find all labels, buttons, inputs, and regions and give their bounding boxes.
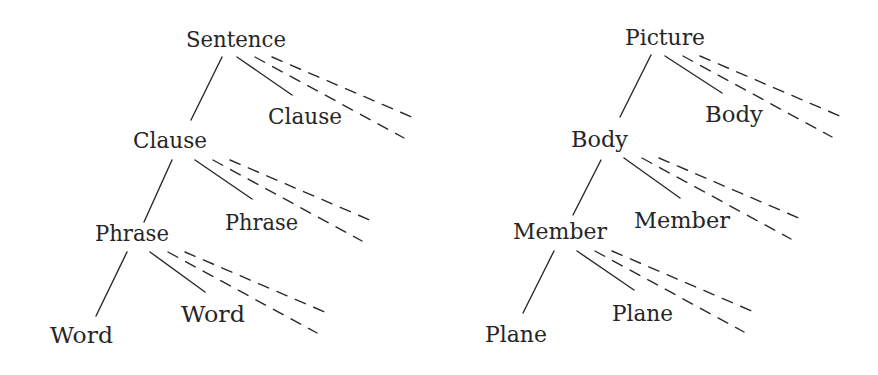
node-member-b: Member	[634, 207, 730, 233]
edge-right-child	[150, 252, 205, 292]
node-plane-a: Plane	[485, 321, 547, 347]
node-clause-a: Clause	[133, 127, 207, 153]
edge-left-child	[96, 252, 127, 316]
node-sentence: Sentence	[186, 26, 286, 52]
node-body-a: Body	[571, 126, 628, 152]
edge-right-child	[624, 158, 680, 198]
edge-right-child	[665, 56, 722, 93]
node-clause-b: Clause	[268, 103, 342, 129]
node-plane-b: Plane	[612, 300, 673, 326]
hierarchy-diagram: SentenceClauseClausePhrasePhraseWordWord…	[0, 0, 878, 375]
edge-left-child	[620, 55, 651, 117]
node-phrase-b: Phrase	[225, 209, 298, 235]
node-word-b: Word	[181, 301, 245, 327]
sentence-hierarchy-tree: SentenceClauseClausePhrasePhraseWordWord	[50, 26, 414, 348]
node-phrase-a: Phrase	[95, 220, 169, 246]
node-body-b: Body	[705, 101, 763, 127]
edge-left-child	[573, 160, 601, 215]
edge-right-child	[577, 251, 634, 290]
edge-left-child	[523, 251, 554, 313]
edge-left-child	[191, 57, 222, 120]
node-member-a: Member	[513, 218, 607, 244]
edge-left-child	[144, 160, 172, 222]
node-word-a: Word	[50, 322, 113, 348]
edge-right-child	[195, 160, 252, 199]
picture-hierarchy-tree: PictureBodyBodyMemberMemberPlanePlane	[485, 24, 842, 347]
node-picture: Picture	[625, 24, 705, 50]
